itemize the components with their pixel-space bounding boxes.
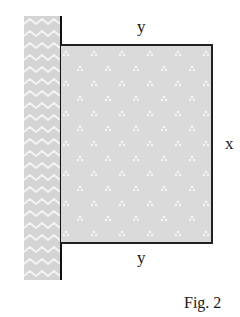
label-right-x: x [225,135,234,152]
plate-rectangle [61,44,213,244]
figure-caption: Fig. 2 [184,295,221,311]
fixed-wall-hatch [24,16,60,280]
label-top-y: y [137,18,146,35]
label-bottom-y: y [137,249,146,266]
